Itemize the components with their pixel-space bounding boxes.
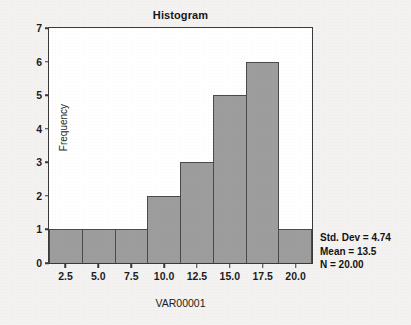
- x-tick-label: 20.0: [274, 270, 318, 282]
- statistics-annotation: Std. Dev = 4.74 Mean = 13.5 N = 20.00: [320, 231, 391, 272]
- x-tick-mark: [295, 263, 297, 268]
- histogram-chart: Histogram Frequency 01234567 2.55.07.510…: [0, 0, 411, 325]
- y-tick-label: 1: [21, 223, 49, 235]
- y-tick-label: 6: [21, 56, 49, 68]
- x-tick-mark: [229, 263, 231, 268]
- histogram-bar: [147, 196, 181, 263]
- chart-title: Histogram: [48, 9, 313, 21]
- y-tick-label: 7: [21, 22, 49, 34]
- y-tick-label: 5: [21, 89, 49, 101]
- y-tick-label: 2: [21, 190, 49, 202]
- histogram-bar: [49, 229, 83, 263]
- bars-layer: [49, 28, 312, 263]
- plot-area: Frequency 01234567 2.55.07.510.012.515.0…: [48, 27, 313, 264]
- x-tick-mark: [65, 263, 67, 268]
- n-text: N = 20.00: [320, 258, 391, 272]
- x-axis-title: VAR00001: [48, 297, 313, 309]
- y-tick-label: 4: [21, 123, 49, 135]
- std-dev-text: Std. Dev = 4.74: [320, 231, 391, 245]
- histogram-bar: [278, 229, 312, 263]
- x-tick-mark: [163, 263, 165, 268]
- histogram-bar: [246, 62, 280, 263]
- mean-text: Mean = 13.5: [320, 245, 391, 259]
- x-tick-mark: [98, 263, 100, 268]
- histogram-bar: [213, 95, 247, 263]
- histogram-bar: [180, 162, 214, 263]
- x-tick-mark: [130, 263, 132, 268]
- x-tick-mark: [262, 263, 264, 268]
- y-tick-label: 0: [21, 257, 49, 269]
- x-tick-mark: [196, 263, 198, 268]
- histogram-bar: [82, 229, 116, 263]
- y-tick-label: 3: [21, 156, 49, 168]
- histogram-bar: [115, 229, 149, 263]
